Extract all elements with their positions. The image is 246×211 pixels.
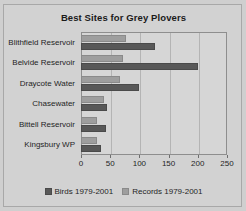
bar-birds <box>81 43 155 50</box>
bar-records <box>81 96 104 103</box>
bar-groups <box>81 32 227 155</box>
category-label: Chasewater <box>4 94 78 115</box>
axis-tick <box>139 155 140 158</box>
bar-birds <box>81 145 101 152</box>
bar-records <box>81 55 123 62</box>
legend-item-birds: Birds 1979-2001 <box>45 187 114 196</box>
chart-legend: Birds 1979-2001 Records 1979-2001 <box>4 187 243 196</box>
bar-birds <box>81 63 198 70</box>
bar-birds <box>81 125 106 132</box>
category-label: Draycote Water <box>4 73 78 94</box>
chart-container: Best Sites for Grey Plovers Blithfield R… <box>3 4 242 207</box>
category-label: Kingsbury WP <box>4 135 78 156</box>
bar-group <box>81 32 227 53</box>
bar-birds <box>81 84 139 91</box>
axis-tick <box>227 155 228 158</box>
category-label: Belvide Reservoir <box>4 53 78 74</box>
bar-group <box>81 53 227 74</box>
axis-tick-label: 250 <box>220 159 233 168</box>
axis-tick <box>198 155 199 158</box>
legend-label: Birds 1979-2001 <box>55 187 114 196</box>
axis-tick <box>81 155 82 158</box>
category-label: Blithfield Reservoir <box>4 32 78 53</box>
screenshot-frame: Best Sites for Grey Plovers Blithfield R… <box>0 0 246 211</box>
axis-tick-label: 50 <box>106 159 115 168</box>
bar-records <box>81 137 97 144</box>
bar-records <box>81 117 97 124</box>
bar-records <box>81 35 126 42</box>
bar-records <box>81 76 120 83</box>
bar-group <box>81 135 227 156</box>
axis-tick <box>169 155 170 158</box>
legend-swatch-icon <box>122 188 129 195</box>
legend-label: Records 1979-2001 <box>132 187 202 196</box>
axis-tick-label: 150 <box>162 159 175 168</box>
legend-swatch-icon <box>45 188 52 195</box>
chart-title: Best Sites for Grey Plovers <box>4 12 243 23</box>
bar-group <box>81 114 227 135</box>
bar-group <box>81 94 227 115</box>
bar-birds <box>81 104 107 111</box>
category-label: Bittell Reservoir <box>4 114 78 135</box>
axis-tick-label: 0 <box>79 159 83 168</box>
axis-tick <box>110 155 111 158</box>
category-axis-labels: Blithfield Reservoir Belvide Reservoir D… <box>4 32 78 155</box>
value-axis: 050100150200250 <box>81 155 227 171</box>
axis-tick-label: 100 <box>133 159 146 168</box>
bar-group <box>81 73 227 94</box>
legend-item-records: Records 1979-2001 <box>122 187 202 196</box>
axis-tick-label: 200 <box>191 159 204 168</box>
